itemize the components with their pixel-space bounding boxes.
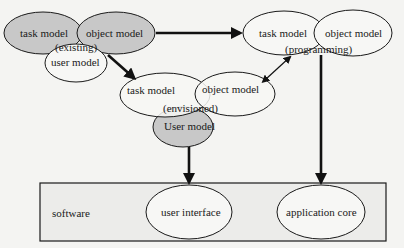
arrow-envisioned-programming-bidirectional bbox=[266, 57, 290, 79]
user-interface-label: user interface bbox=[161, 206, 221, 218]
existing-models-cluster: task model object model (existing) user … bbox=[4, 12, 155, 82]
existing-user-model-label: user model bbox=[51, 56, 100, 68]
software-label: software bbox=[52, 207, 90, 219]
programming-models-cluster: task model object model (programming) bbox=[243, 10, 392, 56]
existing-object-model-label: object model bbox=[86, 27, 143, 39]
envisioned-task-model-label: task model bbox=[127, 84, 175, 96]
arrow-existing-to-envisioned bbox=[108, 55, 134, 78]
envisioned-label: (envisioned) bbox=[163, 102, 218, 115]
programming-task-model-label: task model bbox=[259, 27, 307, 39]
existing-label: (existing) bbox=[55, 41, 97, 54]
models-diagram: software task model object model (existi… bbox=[0, 0, 404, 248]
application-core-label: application core bbox=[286, 206, 357, 218]
envisioned-object-model-label: object model bbox=[202, 83, 259, 95]
programming-label: (programming) bbox=[285, 43, 353, 56]
envisioned-user-model-label: User model bbox=[164, 120, 215, 132]
existing-task-model-label: task model bbox=[20, 27, 68, 39]
programming-object-model-label: object model bbox=[325, 27, 382, 39]
envisioned-models-cluster: task model object model (envisioned) Use… bbox=[120, 72, 275, 147]
